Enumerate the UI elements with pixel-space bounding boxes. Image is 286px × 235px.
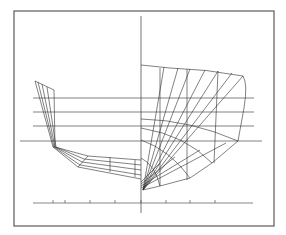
body-plan-svg [0, 0, 286, 235]
bow-ray [141, 150, 200, 186]
section-line [54, 90, 141, 160]
section-line [42, 84, 141, 170]
diagonal-line [141, 119, 238, 141]
figure-frame [14, 11, 274, 226]
body-plan-figure [0, 0, 286, 235]
fore-half-sections [141, 65, 246, 190]
buttock-line [35, 81, 54, 90]
section-line [35, 81, 141, 179]
aft-half-sections [35, 81, 141, 179]
bow-ray [141, 143, 226, 188]
baseline-scale [33, 200, 253, 203]
